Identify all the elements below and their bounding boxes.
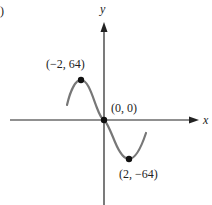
origin-point-label: (0, 0) (111, 102, 137, 114)
max-point-label: (−2, 64) (46, 58, 85, 70)
origin-point-marker (101, 117, 107, 123)
max-point-marker (78, 77, 84, 83)
min-point-marker (126, 156, 132, 162)
part-label: ) (0, 5, 4, 17)
x-axis-label: x (203, 114, 208, 126)
chart-canvas (0, 0, 212, 205)
min-point-label: (2, −64) (119, 168, 158, 180)
x-axis-arrow-icon (189, 117, 199, 124)
y-axis-label: y (100, 3, 105, 15)
y-axis-arrow-icon (101, 22, 108, 32)
